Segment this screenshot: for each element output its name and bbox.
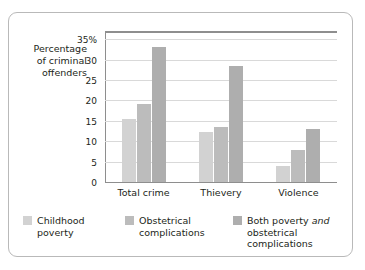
legend-label-emphasis: and [312,215,330,226]
legend-label-line-1: Childhood [37,215,85,226]
legend-label: Obstetrical complications [139,215,205,238]
plot-area [105,31,337,183]
y-axis-tick-label: 35% [77,35,97,45]
bar [214,127,228,182]
chart-figure: Percentage of criminal offenders 0510152… [8,12,353,257]
bar [291,150,305,182]
x-axis-tick-label: Total crime [118,187,170,198]
y-axis-tick-label: 10 [86,137,97,147]
bar [199,132,213,182]
legend-label-line-2: obstetrical complications [247,227,313,250]
y-axis-tick-labels: 05101520253035% [65,31,101,183]
bar [306,129,320,182]
x-axis-tick-labels: Total crimeThieveryViolence [105,187,337,203]
bar [122,119,136,182]
legend-label: Both poverty and obstetrical complicatio… [247,215,361,250]
y-axis-tick-label: 0 [91,178,97,188]
bar-group [122,31,166,182]
y-axis-tick-label: 20 [86,96,97,106]
legend-label-line-1: Obstetrical [139,215,191,226]
legend-item-childhood-poverty: Childhood poverty [23,215,123,238]
chart-legend: Childhood poverty Obstetrical complicati… [21,215,344,251]
legend-swatch-icon [233,216,242,225]
bar [137,104,151,182]
y-axis-tick-label: 15 [86,117,97,127]
legend-label: Childhood poverty [37,215,85,238]
bar-group [199,31,243,182]
legend-label-line-2: poverty [37,227,74,238]
y-axis-tick-label: 5 [91,158,97,168]
y-axis-tick-label: 30 [86,56,97,66]
legend-swatch-icon [125,216,134,225]
bar [276,166,290,182]
bar-groups [105,31,337,183]
bar [229,66,243,182]
x-axis-tick-label: Thievery [200,187,241,198]
legend-label-line-2: complications [139,227,205,238]
legend-item-both-poverty-and-obstetrical-complications: Both poverty and obstetrical complicatio… [233,215,361,250]
legend-swatch-icon [23,216,32,225]
y-axis-tick-label: 25 [86,76,97,86]
x-axis-tick-label: Violence [278,187,318,198]
bar-group [276,31,320,182]
legend-label-prefix: Both poverty [247,215,312,226]
bar [152,47,166,182]
legend-item-obstetrical-complications: Obstetrical complications [125,215,233,238]
